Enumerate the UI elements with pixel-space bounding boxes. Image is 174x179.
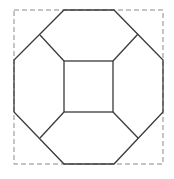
divider-bottom-left [40, 112, 64, 138]
inner-square [64, 61, 113, 112]
divider-top-right [113, 34, 138, 61]
divider-bottom-right [113, 112, 138, 138]
outer-octagon [14, 10, 163, 164]
dashed-bounding-square [14, 10, 163, 164]
divider-top-left [40, 35, 64, 61]
octagon-diagram [0, 0, 174, 179]
